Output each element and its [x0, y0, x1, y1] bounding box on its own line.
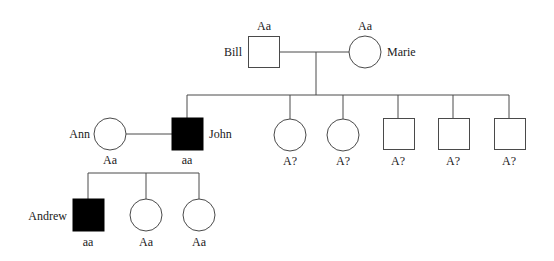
granddaughter-circle-1 — [130, 199, 162, 231]
granddaughter-circle-2 — [183, 199, 215, 231]
son-3-genotype: A? — [502, 154, 516, 168]
andrew-name: Andrew — [28, 209, 67, 223]
granddaughter-1-genotype: Aa — [139, 235, 153, 249]
son-square-2 — [439, 119, 470, 150]
daughter-circle-1 — [274, 119, 306, 151]
john-square-affected — [172, 118, 203, 150]
son-1-genotype: A? — [391, 154, 405, 168]
daughter-1-genotype: A? — [283, 154, 297, 168]
marie-name: Marie — [387, 45, 416, 59]
andrew-square-affected — [73, 199, 104, 231]
bill-genotype: Aa — [257, 19, 271, 33]
granddaughter-2-genotype: Aa — [192, 235, 206, 249]
marie-circle — [349, 36, 381, 68]
john-genotype: aa — [182, 153, 193, 167]
bill-name: Bill — [224, 45, 242, 59]
ann-name: Ann — [69, 127, 90, 141]
daughter-2-genotype: A? — [336, 154, 350, 168]
son-square-1 — [384, 119, 415, 150]
daughter-circle-2 — [327, 119, 359, 151]
ann-genotype: Aa — [103, 153, 117, 167]
son-2-genotype: A? — [446, 154, 460, 168]
ann-circle — [94, 118, 126, 150]
john-name: John — [209, 127, 232, 141]
bill-square — [249, 37, 280, 68]
marie-genotype: Aa — [358, 19, 372, 33]
son-square-3 — [495, 119, 526, 150]
andrew-genotype: aa — [83, 235, 94, 249]
